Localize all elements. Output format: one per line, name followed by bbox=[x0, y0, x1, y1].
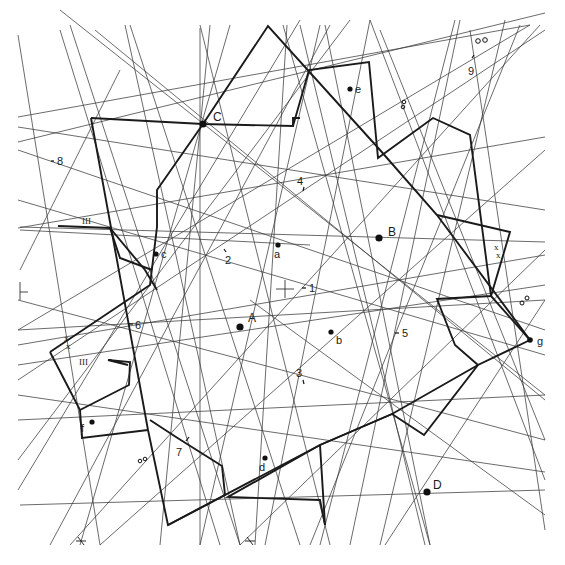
svg-text:5: 5 bbox=[402, 327, 408, 339]
svg-text:g: g bbox=[537, 335, 543, 347]
svg-text:C: C bbox=[213, 110, 222, 124]
major-point-A: A bbox=[236, 311, 256, 331]
tick-4: 4 bbox=[297, 175, 304, 191]
double-cross-mark: x x bbox=[64, 333, 71, 351]
svg-text:B: B bbox=[388, 225, 396, 239]
svg-text:e: e bbox=[355, 83, 361, 95]
center-cross-icon bbox=[276, 280, 294, 298]
triple-bar-mark: III bbox=[79, 357, 88, 367]
svg-text:d: d bbox=[259, 461, 265, 473]
svg-text:1: 1 bbox=[309, 282, 315, 294]
minor-point-e: e bbox=[347, 83, 361, 95]
svg-text:7: 7 bbox=[176, 446, 182, 458]
svg-text:D: D bbox=[433, 478, 442, 492]
minor-point-c: c bbox=[153, 248, 167, 260]
geometric-construction-diagram: A B C D a b c d e f g 1 2 bbox=[0, 0, 565, 565]
double-circle-mark bbox=[520, 296, 529, 305]
svg-text:4: 4 bbox=[297, 175, 303, 187]
svg-text:x: x bbox=[496, 250, 501, 260]
svg-text:9: 9 bbox=[468, 65, 474, 77]
edge-cross-icon bbox=[20, 282, 28, 300]
tick-8: 8 bbox=[51, 155, 63, 167]
triple-bar-mark: III bbox=[82, 216, 91, 226]
double-cross-mark: x x bbox=[494, 242, 501, 260]
svg-text:3: 3 bbox=[296, 367, 302, 379]
svg-text:x: x bbox=[66, 341, 71, 351]
svg-text:a: a bbox=[274, 248, 281, 260]
svg-text:b: b bbox=[336, 334, 342, 346]
tick-2: 2 bbox=[224, 249, 231, 266]
double-circle-mark bbox=[476, 38, 488, 44]
svg-text:8: 8 bbox=[57, 155, 63, 167]
minor-point-f: f bbox=[81, 419, 95, 434]
major-point-B: B bbox=[375, 225, 396, 242]
svg-text:c: c bbox=[161, 248, 167, 260]
svg-text:A: A bbox=[248, 311, 256, 325]
svg-text:f: f bbox=[81, 422, 85, 434]
minor-point-a: a bbox=[274, 242, 281, 260]
star-mark-icon bbox=[76, 537, 255, 545]
tick-9: 9 bbox=[468, 55, 474, 77]
outline-figure bbox=[50, 26, 530, 525]
svg-text:6: 6 bbox=[135, 319, 141, 331]
minor-point-g: g bbox=[527, 335, 543, 347]
svg-text:2: 2 bbox=[225, 254, 231, 266]
